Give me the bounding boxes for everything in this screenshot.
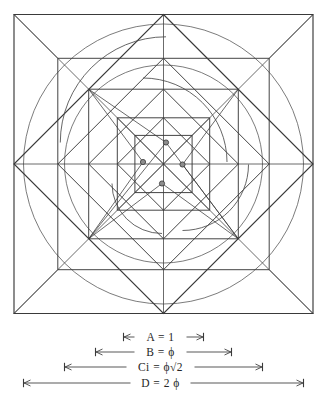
- radius-line-3-1: [162, 184, 238, 239]
- spiral-center-top: [163, 140, 168, 145]
- dimension-lines: A = 1B = ϕCi = ϕ√2D = 2 ϕ: [24, 331, 304, 390]
- dimension-D: D = 2 ϕ: [24, 377, 304, 390]
- dimension-label-A: A = 1: [146, 331, 174, 343]
- geometric-figure: A = 1B = ϕCi = ϕ√2D = 2 ϕ: [0, 0, 325, 401]
- radius-line-3-0: [89, 184, 162, 239]
- corner-ray-2: [269, 270, 313, 314]
- dimension-label-D: D = 2 ϕ: [141, 377, 180, 390]
- construction-drawing: A = 1B = ϕCi = ϕ√2D = 2 ϕ: [0, 0, 325, 401]
- construction-group: [14, 15, 313, 314]
- corner-ray-0: [14, 15, 58, 59]
- corner-ray-3: [14, 270, 58, 314]
- spiral-center-left: [140, 159, 145, 164]
- radius-line-2-1: [183, 165, 239, 239]
- dimension-label-B: B = ϕ: [146, 346, 174, 359]
- corner-ray-1: [269, 15, 313, 59]
- spiral-center-bottom: [159, 181, 164, 186]
- dimension-Ci: Ci = ϕ√2: [65, 361, 263, 374]
- dimension-B: B = ϕ: [96, 346, 232, 359]
- radius-line-2-0: [183, 89, 239, 164]
- dimension-A: A = 1: [124, 331, 204, 343]
- spiral-center-right: [180, 162, 185, 167]
- radius-line-0-2: [89, 143, 166, 239]
- radius-line-0-0: [89, 89, 166, 142]
- radius-line-1-0: [89, 162, 143, 239]
- dimension-label-Ci: Ci = ϕ√2: [138, 361, 183, 374]
